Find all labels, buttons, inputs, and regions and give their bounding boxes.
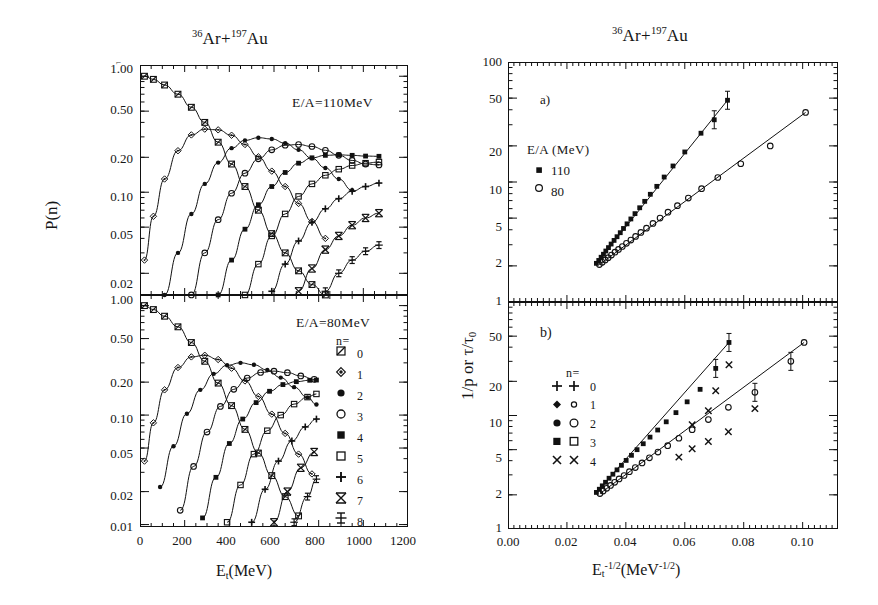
figure-canvas: 36Ar+197Au P(n) 1.00 0.50 0.20 0.10 0.05… (0, 0, 878, 605)
right-xtick-2: 0.04 (601, 535, 649, 548)
tr-ytick-5: 2 (452, 256, 502, 269)
left-y-axis-label: P(n) (42, 201, 62, 230)
right-x-label-unit-sup: -1/2 (659, 560, 675, 571)
bl-ytick-2: 0.20 (78, 376, 133, 389)
left-xtick-5: 1000 (339, 534, 379, 547)
left-panel-title: 36Ar+197Au (192, 28, 268, 49)
left-title-sup-197: 197 (231, 28, 247, 39)
left-xtick-0: 0 (124, 534, 156, 547)
right-title-sup-197: 197 (651, 25, 667, 36)
tr-ytick-2: 20 (452, 145, 502, 158)
left-xtick-3: 600 (252, 534, 288, 547)
bl-ytick-4: 0.05 (78, 447, 133, 460)
bl-ytick-5: 0.02 (78, 489, 133, 502)
tr-ytick-3: 10 (452, 183, 502, 196)
left-xtick-2: 400 (208, 534, 244, 547)
br-ytick-6: 1 (452, 521, 502, 534)
right-title-au: Au (667, 26, 688, 45)
right-xtick-5: 0.10 (778, 535, 826, 548)
tr-ytick-6: 1 (452, 294, 502, 307)
tl-ytick-2: 0.20 (78, 152, 133, 165)
tr-ytick-1: 50 (452, 92, 502, 105)
left-title-ar: Ar+ (203, 29, 231, 48)
left-xtick-6: 1200 (383, 534, 423, 547)
tl-ytick-1: 0.50 (78, 103, 133, 116)
left-x-label-unit: (MeV) (229, 562, 273, 579)
br-ytick-3: 10 (452, 416, 502, 429)
left-x-label-E: E (216, 562, 226, 579)
stray-mark: ⌐ (116, 58, 121, 67)
tl-ytick-0: 1.00 (78, 62, 133, 75)
right-x-label-sup: -1/2 (605, 560, 621, 571)
bl-ytick-3: 0.10 (78, 412, 133, 425)
right-xtick-3: 0.06 (660, 535, 708, 548)
tr-ytick-0: 100 (452, 55, 502, 68)
right-xtick-1: 0.02 (542, 535, 590, 548)
tl-ytick-3: 0.10 (78, 190, 133, 203)
left-x-axis-label: Et(MeV) (216, 562, 272, 581)
right-x-label-unit-close: ) (675, 561, 680, 578)
right-panels-data-layer (508, 62, 838, 529)
right-title-sup-36: 36 (612, 25, 623, 36)
left-xtick-4: 800 (297, 534, 333, 547)
bl-ytick-0: 1.00 (78, 293, 133, 306)
bl-ytick-1: 0.50 (78, 332, 133, 345)
right-xtick-0: 0.00 (484, 535, 532, 548)
left-xtick-1: 200 (164, 534, 200, 547)
right-x-label-E: E (592, 561, 602, 578)
right-panel-title: 36Ar+197Au (612, 25, 688, 46)
bl-ytick-6: 0.01 (78, 520, 133, 533)
br-ytick-5: 2 (452, 487, 502, 500)
left-title-sup-36: 36 (192, 28, 203, 39)
right-x-label-unit-open: (MeV (621, 561, 659, 578)
tl-ytick-4: 0.05 (78, 228, 133, 241)
left-title-au: Au (247, 29, 268, 48)
br-ytick-4: 5 (452, 451, 502, 464)
tl-ytick-5: 0.02 (78, 277, 133, 290)
left-panels-data-layer (140, 65, 408, 527)
right-title-ar: Ar+ (623, 26, 651, 45)
br-ytick-2: 20 (452, 380, 502, 393)
right-x-axis-label: Et-1/2(MeV-1/2) (592, 560, 680, 579)
br-ytick-1: 50 (452, 330, 502, 343)
right-xtick-4: 0.08 (719, 535, 767, 548)
tr-ytick-4: 5 (452, 220, 502, 233)
